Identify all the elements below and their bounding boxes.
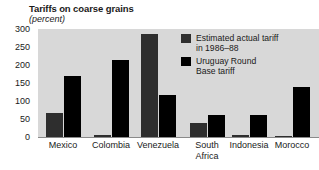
y-axis-tick-label: 100 bbox=[0, 96, 30, 106]
bar bbox=[141, 34, 158, 137]
bar bbox=[190, 123, 207, 137]
bar bbox=[232, 135, 249, 137]
legend-item: Uruguay Round Base tariff bbox=[181, 56, 278, 76]
legend-label: Uruguay Round Base tariff bbox=[196, 56, 278, 76]
bar bbox=[159, 95, 176, 137]
chart-legend: Estimated actual tariff in 1986–88Urugua… bbox=[181, 33, 278, 79]
bar-group bbox=[94, 29, 129, 137]
bar bbox=[64, 76, 81, 137]
bar bbox=[293, 87, 310, 137]
y-axis-tick-label: 50 bbox=[0, 114, 30, 124]
y-axis-tick-label: 250 bbox=[0, 42, 30, 52]
bar bbox=[112, 60, 129, 137]
y-axis-tick-label: 0 bbox=[0, 132, 30, 142]
x-axis-label: Morocco bbox=[260, 140, 319, 151]
chart-title: Tariffs on coarse grains bbox=[29, 3, 134, 14]
bar bbox=[250, 115, 267, 137]
y-axis-tick-label: 200 bbox=[0, 60, 30, 70]
chart-subtitle: (percent) bbox=[29, 14, 65, 24]
bar bbox=[208, 115, 225, 137]
legend-swatch-icon bbox=[181, 57, 191, 66]
bar-group bbox=[46, 29, 81, 137]
legend-item: Estimated actual tariff in 1986–88 bbox=[181, 33, 278, 53]
bar-group bbox=[275, 29, 310, 137]
legend-swatch-icon bbox=[181, 34, 191, 43]
bar bbox=[275, 136, 292, 138]
bar bbox=[94, 135, 111, 137]
bar bbox=[46, 113, 63, 137]
legend-label: Estimated actual tariff in 1986–88 bbox=[196, 33, 278, 53]
x-axis-baseline bbox=[38, 137, 319, 138]
y-axis-tick-label: 150 bbox=[0, 78, 30, 88]
y-axis-tick-label: 300 bbox=[0, 24, 30, 34]
chart-figure: Tariffs on coarse grains (percent) 05010… bbox=[0, 0, 319, 170]
bar-group bbox=[141, 29, 176, 137]
